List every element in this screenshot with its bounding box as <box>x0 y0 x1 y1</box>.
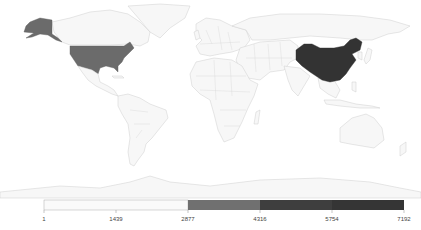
region-united-states[interactable] <box>70 42 134 74</box>
region-india[interactable] <box>284 66 310 96</box>
legend-segment-3 <box>260 200 332 210</box>
legend-segment-1 <box>44 200 188 210</box>
region-japan[interactable] <box>364 48 372 64</box>
legend-segment-4 <box>332 200 404 210</box>
region-new-zealand[interactable] <box>400 142 406 156</box>
legend-tick-5: 5754 <box>325 216 339 222</box>
region-australia[interactable] <box>340 114 384 148</box>
region-indonesia[interactable] <box>324 100 380 108</box>
legend-tick-1: 1 <box>42 216 46 222</box>
region-philippines[interactable] <box>352 82 356 92</box>
region-korea[interactable] <box>358 52 362 60</box>
legend-tick-6: 7192 <box>397 216 411 222</box>
legend-segment-2 <box>188 200 260 210</box>
legend-tick-2: 1439 <box>109 216 123 222</box>
region-south-america[interactable] <box>118 94 168 166</box>
region-antarctica[interactable] <box>0 176 421 198</box>
region-caribbean[interactable] <box>112 76 124 78</box>
region-canada[interactable] <box>52 10 150 46</box>
region-russia[interactable] <box>232 14 410 40</box>
world-map: 1 1439 2877 4316 5754 7192 <box>0 0 421 230</box>
legend: 1 1439 2877 4316 5754 7192 <box>42 200 411 222</box>
legend-tick-4: 4316 <box>253 216 267 222</box>
region-madagascar[interactable] <box>254 110 260 124</box>
legend-ticks <box>44 210 404 213</box>
legend-tick-3: 2877 <box>181 216 195 222</box>
